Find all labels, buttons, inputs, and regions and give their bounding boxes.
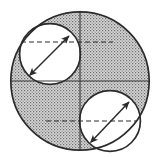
geometry-figure: Shaded region between a large circle and… — [0, 0, 157, 157]
figure-canvas — [0, 0, 157, 157]
